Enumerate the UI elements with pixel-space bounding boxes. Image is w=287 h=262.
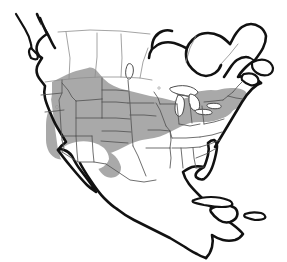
border-bc-alberta	[66, 32, 70, 79]
newfoundland-outline	[252, 60, 273, 76]
range-map-figure	[0, 0, 287, 262]
border-louisiana-mississippi	[170, 148, 171, 168]
hispaniola-outline	[244, 212, 265, 220]
lake-winnipeg-shape	[126, 64, 134, 79]
nova-scotia-outline	[242, 73, 259, 85]
inland-lake-mark	[158, 87, 160, 89]
hudson-bay-outline	[186, 33, 230, 76]
range-map-svg	[0, 0, 287, 262]
border-tennessee-south	[172, 147, 200, 148]
labrador-coastline	[230, 24, 266, 60]
lake-ontario-shape	[207, 103, 221, 109]
border-saskatchewan-manitoba	[121, 34, 122, 77]
border-texas-louisiana	[133, 146, 146, 176]
border-alberta-saskatchewan	[95, 33, 97, 77]
border-kentucky-tennessee	[172, 137, 200, 138]
border-alabama-georgia	[193, 148, 196, 168]
lake-erie-shape	[195, 109, 212, 115]
cuba-outline	[193, 197, 233, 207]
border-northern-territories	[58, 30, 150, 34]
florida-peninsula-outline	[196, 140, 217, 179]
border-virginia-carolina	[200, 132, 222, 137]
border-mississippi-alabama	[181, 148, 183, 168]
lake-michigan-shape	[175, 95, 184, 116]
mexico-west-coastline	[117, 209, 206, 258]
border-manitoba-ontario	[140, 48, 148, 78]
